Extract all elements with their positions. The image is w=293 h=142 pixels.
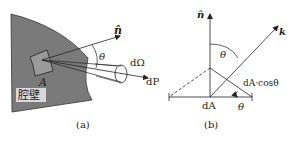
theta-arc-a	[92, 45, 97, 68]
theta-label-a: θ	[99, 51, 105, 62]
projected-area-label: dA·cosθ	[243, 78, 279, 88]
dashed-projection	[169, 68, 210, 97]
normal-label-a: n̂	[114, 24, 122, 37]
normal-label-b: n̂	[197, 9, 204, 20]
solid-angle-label: dΩ	[130, 57, 145, 68]
diagram-canvas: 腔壁 A n̂ θ dΩ dP (a) n̂ k θ dA·cosθ dA θ …	[0, 0, 293, 142]
k-label: k	[279, 26, 286, 37]
panel-b: n̂ k θ dA·cosθ dA θ (b)	[169, 9, 286, 130]
area-label-a: A	[38, 76, 47, 89]
caption-b: (b)	[204, 119, 218, 130]
panel-a: 腔壁 A n̂ θ dΩ dP (a)	[11, 14, 159, 130]
area-label-b: dA	[202, 100, 216, 111]
wall-label: 腔壁	[18, 88, 40, 102]
caption-a: (a)	[76, 119, 90, 130]
theta-label-top: θ	[220, 49, 226, 60]
theta-label-bottom: θ	[238, 101, 244, 112]
theta-arc-bottom	[236, 91, 238, 97]
power-label: dP	[146, 76, 159, 87]
cone-edge-top	[95, 64, 117, 66]
cone-edge-bottom	[96, 76, 118, 82]
